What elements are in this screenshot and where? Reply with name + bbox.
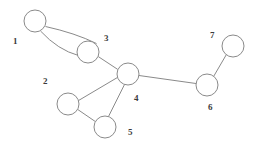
- graph-node[interactable]: [222, 35, 244, 57]
- graph-edge: [78, 77, 117, 100]
- node-label: 3: [104, 34, 109, 43]
- graph-diagram: 1234567: [0, 0, 255, 150]
- node-label: 2: [43, 77, 48, 86]
- graph-node[interactable]: [24, 10, 46, 32]
- graph-edge: [109, 85, 125, 117]
- graph-edge: [78, 110, 95, 122]
- node-label: 4: [134, 94, 139, 103]
- graph-node[interactable]: [77, 41, 99, 63]
- graph-edge: [98, 57, 117, 70]
- graph-node[interactable]: [117, 63, 139, 85]
- node-label: 7: [210, 31, 215, 40]
- node-label: 6: [208, 103, 213, 112]
- graph-node[interactable]: [94, 116, 116, 138]
- graph-edge: [139, 76, 196, 84]
- graph-node[interactable]: [57, 93, 79, 115]
- graph-edge: [214, 55, 227, 77]
- node-label: 1: [13, 37, 18, 46]
- node-label: 5: [128, 128, 133, 137]
- graph-edge: [41, 31, 79, 56]
- graph-node[interactable]: [196, 74, 218, 96]
